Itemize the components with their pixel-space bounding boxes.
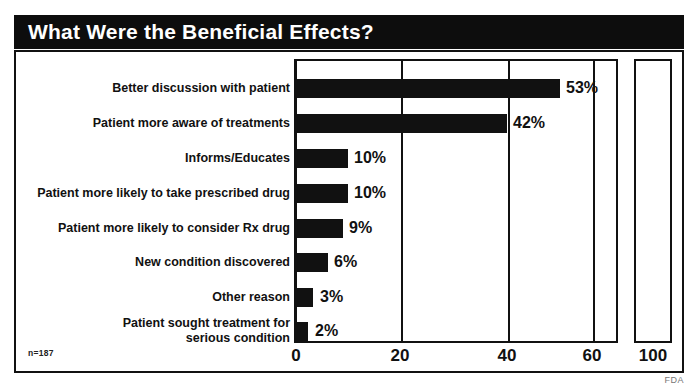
bar-row: Patient sought treatment for serious con… — [0, 315, 698, 347]
bar — [296, 79, 560, 98]
bar — [296, 219, 343, 238]
category-label: Patient sought treatment for serious con… — [18, 316, 290, 346]
bar-value-label: 6% — [334, 253, 357, 271]
category-label: Informs/Educates — [18, 151, 290, 165]
bar-value-label: 2% — [315, 322, 338, 340]
sample-size-note: n=187 — [28, 348, 54, 358]
title-banner: What Were the Beneficial Effects? — [14, 15, 684, 49]
bar-value-label: 3% — [320, 288, 343, 306]
bar-row: Patient more likely to consider Rx drug … — [0, 212, 698, 244]
bar — [296, 149, 348, 168]
category-label: Better discussion with patient — [18, 81, 290, 95]
bar — [296, 288, 313, 307]
category-label: Other reason — [18, 290, 290, 304]
xtick-100: 100 — [639, 346, 667, 366]
bar-row: New condition discovered 6% — [0, 246, 698, 278]
bar-value-label: 42% — [513, 114, 545, 132]
bar-value-label: 10% — [354, 184, 386, 202]
xtick-0: 0 — [291, 346, 300, 366]
bar — [296, 114, 507, 133]
bar-value-label: 10% — [354, 149, 386, 167]
page-title: What Were the Beneficial Effects? — [14, 20, 374, 44]
bar — [296, 253, 328, 272]
xtick-60: 60 — [583, 346, 602, 366]
bar-row: Better discussion with patient 53% — [0, 72, 698, 104]
xtick-40: 40 — [498, 346, 517, 366]
bar-row: Informs/Educates 10% — [0, 142, 698, 174]
category-label: New condition discovered — [18, 255, 290, 269]
bar-row: Patient more likely to take prescribed d… — [0, 177, 698, 209]
bar — [296, 322, 308, 341]
bar-row: Patient more aware of treatments 42% — [0, 107, 698, 139]
category-label: Patient more likely to take prescribed d… — [18, 186, 290, 200]
source-credit: FDA — [665, 375, 685, 385]
xtick-20: 20 — [391, 346, 410, 366]
bar-value-label: 53% — [566, 79, 598, 97]
bar-row: Other reason 3% — [0, 281, 698, 313]
category-label: Patient more likely to consider Rx drug — [18, 221, 290, 235]
bar — [296, 184, 348, 203]
bar-value-label: 9% — [349, 219, 372, 237]
category-label: Patient more aware of treatments — [18, 116, 290, 130]
